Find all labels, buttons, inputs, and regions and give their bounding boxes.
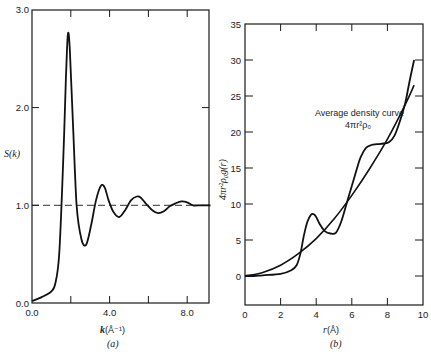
x-tick-label: 6 [349, 309, 354, 320]
panel-b-y-tick-labels: 05101520253035 [230, 19, 241, 282]
radial-distribution-curve [245, 60, 414, 276]
x-tick-label: 0.0 [25, 307, 38, 318]
y-tick-label: 3.0 [16, 4, 29, 15]
panel-b-x-axis-label: r(Å) [323, 324, 339, 335]
y-tick-label: 20 [230, 127, 241, 138]
x-tick-label: 8.0 [181, 307, 194, 318]
x-tick-label: 4 [314, 309, 319, 320]
y-tick-label: 1.0 [16, 200, 29, 211]
panel-b-caption: (b) [330, 338, 342, 350]
average-density-formula: 4πr²ρ₀ [345, 120, 371, 130]
panel-b-y-axis-label: 4πr²ρ₀g(r) [217, 159, 229, 200]
y-tick-label: 15 [230, 163, 241, 174]
panel-a-x-axis-label: k(Å⁻¹) [100, 324, 125, 335]
y-tick-label: 35 [230, 19, 241, 30]
x-tick-label: 10 [418, 309, 429, 320]
figure-canvas: 0.01.02.03.0 0.04.08.0 S(k) k(Å⁻¹) (a) 0… [0, 0, 431, 357]
x-tick-label: 8 [385, 309, 390, 320]
y-tick-label: 5 [236, 235, 241, 246]
x-tick-label: 2 [278, 309, 283, 320]
y-tick-label: 2.0 [16, 102, 29, 113]
average-density-annotation: Average density curve [315, 108, 404, 118]
y-tick-label: 30 [230, 55, 241, 66]
panel-a-y-axis-label: S(k) [4, 148, 21, 160]
panel-b-ticks [245, 24, 423, 305]
panel-b-x-tick-labels: 0246810 [242, 309, 428, 320]
y-tick-label: 10 [230, 199, 241, 210]
y-tick-label: 25 [230, 91, 241, 102]
y-tick-label: 0 [236, 271, 241, 282]
panel-a-x-tick-labels: 0.04.08.0 [25, 307, 193, 318]
sk-curve [32, 33, 211, 301]
panel-b-frame [245, 24, 423, 305]
panel-b: 05101520253035 0246810 Average density c… [217, 19, 428, 351]
panel-a-caption: (a) [107, 338, 119, 350]
x-tick-label: 0 [242, 309, 247, 320]
x-tick-label: 4.0 [103, 307, 116, 318]
panel-a: 0.01.02.03.0 0.04.08.0 S(k) k(Å⁻¹) (a) [4, 4, 211, 350]
